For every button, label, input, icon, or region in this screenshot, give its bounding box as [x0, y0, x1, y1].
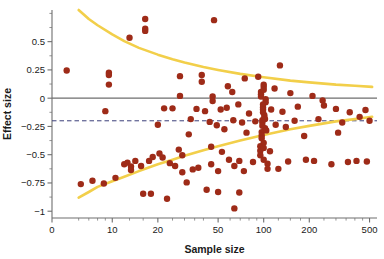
data-point [279, 109, 285, 115]
data-point [176, 146, 182, 152]
y-tick-label: 0.5 [32, 36, 45, 47]
data-point [199, 79, 205, 85]
x-axis-major-ticks [52, 218, 370, 223]
data-point [262, 116, 268, 122]
data-point [148, 191, 154, 197]
data-point [243, 129, 249, 135]
data-point [261, 145, 267, 151]
data-point [155, 122, 161, 128]
y-axis-major-ticks [48, 42, 53, 212]
data-point [138, 163, 144, 169]
data-point [252, 118, 258, 124]
data-point [179, 152, 185, 158]
x-tick-label: 50 [213, 224, 224, 235]
data-point [221, 126, 227, 132]
x-tick-label: 500 [362, 224, 378, 235]
data-point [230, 117, 236, 123]
data-point [291, 118, 297, 124]
x-tick-label: 200 [301, 224, 317, 235]
data-point [199, 72, 205, 78]
data-point [241, 168, 247, 174]
data-point [215, 189, 221, 195]
data-point [142, 28, 148, 34]
x-tick-label: 100 [256, 224, 272, 235]
data-point [202, 108, 208, 114]
data-point [159, 154, 165, 160]
data-point [264, 166, 270, 172]
data-point [246, 110, 252, 116]
data-point [229, 89, 235, 95]
x-axis-tick-labels: 0102050100200500 [49, 224, 377, 235]
data-point [188, 116, 194, 122]
data-point [272, 122, 278, 128]
y-tick-label: −0.25 [21, 121, 45, 132]
data-point [161, 105, 167, 111]
data-point [169, 105, 175, 111]
data-point [112, 175, 118, 181]
data-point [183, 179, 189, 185]
data-point [277, 62, 283, 68]
data-point [366, 118, 372, 124]
data-point [239, 119, 245, 125]
data-point [214, 122, 220, 128]
data-point [309, 93, 315, 99]
data-point [177, 93, 183, 99]
plot-canvas: 0102050100200500 0.50.250−0.25−0.5−0.75−… [0, 0, 384, 259]
data-point [190, 166, 196, 172]
confidence-bound-curves [79, 10, 372, 198]
data-point [364, 158, 370, 164]
data-point [211, 17, 217, 23]
data-point [101, 180, 107, 186]
data-point [219, 149, 225, 155]
data-point [150, 154, 156, 160]
y-tick-label: 0.25 [27, 64, 46, 75]
data-point [106, 72, 112, 78]
data-point [128, 167, 134, 173]
y-axis-title: Effect size [1, 88, 13, 140]
data-point [195, 165, 201, 171]
data-point [242, 75, 248, 81]
data-point [356, 114, 362, 120]
data-point [267, 148, 273, 154]
x-axis-title: Sample size [184, 243, 244, 255]
data-point [250, 159, 256, 165]
data-point [339, 119, 345, 125]
data-point [177, 73, 183, 79]
data-point [347, 109, 353, 115]
data-point [207, 119, 213, 125]
data-point [193, 106, 199, 112]
data-point [231, 163, 237, 169]
data-point [268, 106, 274, 112]
data-point [172, 163, 178, 169]
data-point [179, 169, 185, 175]
data-point [333, 106, 339, 112]
y-axis-tick-labels: 0.50.250−0.25−0.5−0.75−1 [21, 36, 45, 217]
data-point [335, 129, 341, 135]
data-point [283, 124, 289, 130]
data-point [287, 90, 293, 96]
data-point [345, 159, 351, 165]
data-point [215, 168, 221, 174]
data-point [126, 35, 132, 41]
data-point [209, 98, 215, 104]
data-point [353, 158, 359, 164]
data-point [231, 205, 237, 211]
data-point [164, 196, 170, 202]
data-point [225, 83, 231, 89]
y-tick-label: −0.75 [21, 177, 45, 188]
data-point [362, 107, 368, 113]
data-point [301, 133, 307, 139]
data-point [78, 181, 84, 187]
data-point [315, 116, 321, 122]
data-point [102, 108, 108, 114]
data-point [235, 101, 241, 107]
y-tick-label: 0 [40, 93, 45, 104]
data-point [271, 85, 277, 91]
data-point [255, 74, 261, 80]
data-point [89, 178, 95, 184]
data-point [275, 166, 281, 172]
data-point [285, 158, 291, 164]
x-tick-label: 0 [49, 224, 54, 235]
data-point [226, 157, 232, 163]
data-point [208, 161, 214, 167]
